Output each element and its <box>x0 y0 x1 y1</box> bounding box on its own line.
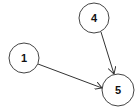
node-4-label: 4 <box>91 12 98 24</box>
node-1: 1 <box>9 43 39 73</box>
graph-diagram: 1 4 5 <box>0 0 140 112</box>
edge-1-to-5 <box>38 64 102 88</box>
edge-4-to-5 <box>101 32 114 74</box>
node-5-label: 5 <box>115 84 121 96</box>
node-1-label: 1 <box>21 52 27 64</box>
node-4: 4 <box>79 3 109 33</box>
node-5: 5 <box>102 74 134 106</box>
